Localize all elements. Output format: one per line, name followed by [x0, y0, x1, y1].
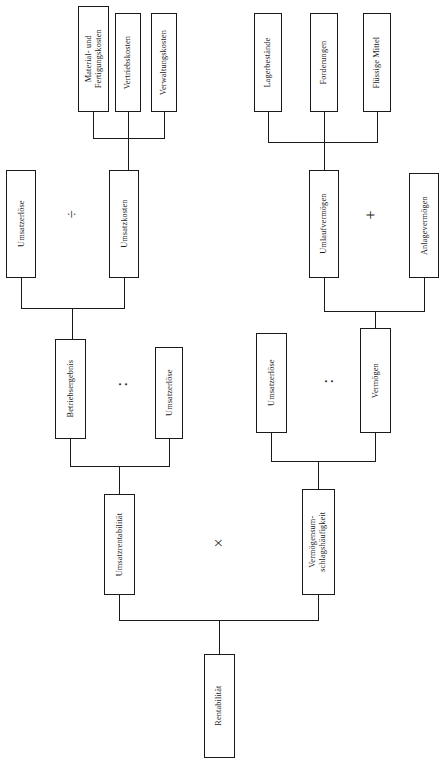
- connector-stub: [377, 112, 378, 142]
- node-umsatzerloese-level3-left: Umsatzerlöse: [155, 347, 183, 439]
- node-label: Umsatzerlöse: [164, 370, 173, 417]
- node-anlagevermoegen: Anlagevermögen: [409, 173, 439, 278]
- node-verwaltungskosten: Verwaltungskosten: [151, 13, 177, 112]
- node-rentabilitaet: Rentabilität: [204, 654, 235, 758]
- node-label: Material- und Fertigungskosten: [84, 29, 104, 88]
- node-label: Betriebsergebnis: [66, 360, 75, 418]
- node-vermoegen: Vermögen: [360, 328, 391, 433]
- node-betriebsergebnis: Betriebsergebnis: [55, 339, 86, 439]
- connector-stub: [169, 439, 170, 466]
- node-label: Forderungen: [319, 41, 328, 85]
- node-vermoegensumschlagshaeufigkeit: Vermögensum- schlagshäufigkeit: [302, 489, 335, 595]
- node-material-fertigungskosten: Material- und Fertigungskosten: [78, 6, 109, 112]
- node-label: Verwaltungskosten: [159, 30, 168, 95]
- connector-drop: [72, 308, 73, 339]
- node-label: Lagerbestände: [263, 38, 272, 88]
- connector-drop: [119, 466, 120, 494]
- connector-stub: [375, 433, 376, 461]
- node-label: Vertriebskosten: [123, 36, 132, 89]
- connector-stub: [128, 112, 129, 138]
- node-umsatzerloese-level2-left: Umsatzerlöse: [6, 170, 36, 278]
- node-label: Rentabilität: [215, 686, 224, 726]
- connector-drop: [324, 142, 325, 170]
- operator-colon-right: :: [317, 371, 337, 391]
- connector-stub: [324, 278, 325, 311]
- operator-plus-right: +: [361, 205, 381, 225]
- node-label: Umsatzerlöse: [16, 201, 25, 248]
- node-umlaufvermoegen: Umlaufvermögen: [309, 170, 339, 278]
- connector-stub: [119, 595, 120, 620]
- connector-drop: [219, 620, 220, 654]
- node-label: Anlagevermögen: [419, 196, 428, 255]
- connector-stub: [124, 278, 125, 308]
- node-vertriebskosten: Vertriebskosten: [115, 13, 141, 112]
- connector-stub: [324, 112, 325, 142]
- connector-stub: [318, 595, 319, 620]
- connector-stub: [424, 278, 425, 311]
- connector-stub: [164, 112, 165, 138]
- connector-drop: [318, 461, 319, 489]
- node-umsatzkosten: Umsatzkosten: [109, 170, 139, 278]
- node-label: Umsatzkosten: [119, 200, 128, 248]
- connector-stub: [70, 439, 71, 466]
- node-label: Umlaufvermögen: [319, 194, 328, 254]
- connector-bus: [271, 461, 376, 462]
- node-umsatzerloese-level3-right: Umsatzerlöse: [256, 333, 287, 433]
- node-label: Vermögen: [371, 363, 380, 398]
- connector-stub: [93, 112, 94, 138]
- node-lagerbestaende: Lagerbestände: [254, 13, 282, 112]
- node-label: Umsatzrentabilität: [115, 513, 124, 576]
- connector-drop: [128, 138, 129, 170]
- node-label: Flüssige Mittel: [372, 37, 381, 89]
- node-forderungen: Forderungen: [310, 13, 338, 112]
- connector-stub: [271, 433, 272, 461]
- connector-stub: [268, 112, 269, 142]
- node-fluessige-mittel: Flüssige Mittel: [363, 13, 391, 112]
- operator-division-left: ÷: [62, 204, 82, 224]
- operator-times-bottom: ×: [209, 533, 229, 553]
- operator-colon-left: :: [111, 374, 131, 394]
- connector-bus: [268, 142, 378, 143]
- connector-stub: [21, 278, 22, 308]
- node-label: Vermögensum- schlagshäufigkeit: [309, 512, 329, 572]
- node-umsatzrentabilitaet: Umsatzrentabilität: [104, 494, 135, 595]
- node-label: Umsatzerlöse: [267, 360, 276, 407]
